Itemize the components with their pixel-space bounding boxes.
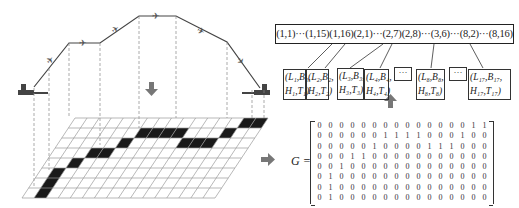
sequence-arrows (308, 44, 483, 68)
matrix-cell: 0 (446, 152, 457, 162)
matrix-cell: 0 (424, 121, 435, 131)
matrix-cell: 0 (325, 121, 336, 131)
matrix-cell: 0 (358, 193, 369, 203)
matrix-cell: 0 (424, 152, 435, 162)
matrix-cell: 0 (424, 183, 435, 193)
matrix-cell: 0 (358, 142, 369, 152)
matrix-cell: 0 (336, 131, 347, 141)
matrix-cell: 0 (457, 152, 468, 162)
matrix-cell: 0 (402, 162, 413, 172)
node-2: (L₂,B₂,H₂,T₂) (306, 69, 329, 100)
matrix-cell: 1 (325, 193, 336, 203)
matrix-cell: 0 (347, 172, 358, 182)
matrix-cell: 0 (314, 152, 325, 162)
matrix-row: 0010000000000000 (311, 162, 493, 172)
occupied-cell (47, 168, 66, 178)
matrix-cell: 0 (479, 193, 490, 203)
matrix-cell: 0 (347, 162, 358, 172)
matrix-cell: 0 (413, 172, 424, 182)
matrix-cell: 0 (479, 142, 490, 152)
matrix-cell: 0 (468, 131, 479, 141)
matrix-cell: 0 (380, 193, 391, 203)
matrix-cell: 0 (479, 183, 490, 193)
matrix-cell: 0 (457, 142, 468, 152)
matrix-cell: 0 (347, 183, 358, 193)
matrix-cell: 0 (446, 162, 457, 172)
matrix-cell: 1 (402, 131, 413, 141)
matrix-cell: 0 (468, 193, 479, 203)
matrix-cell: 0 (424, 162, 435, 172)
matrix-cell: 0 (391, 162, 402, 172)
matrix-cell: 0 (391, 183, 402, 193)
airport-icon-left (18, 84, 48, 95)
right-arrow-icon (261, 153, 275, 166)
matrix-cell: 0 (424, 172, 435, 182)
matrix-cell: 0 (457, 162, 468, 172)
matrix-row: 0100000000000000 (311, 183, 493, 193)
matrix-cell: 0 (479, 162, 490, 172)
matrix-cell: 0 (413, 183, 424, 193)
matrix-cell: 0 (391, 152, 402, 162)
matrix-cell: 0 (446, 183, 457, 193)
matrix-cell: 0 (325, 162, 336, 172)
matrix-row: 0000001111000100 (311, 131, 493, 141)
matrix-cell: 0 (391, 121, 402, 131)
matrix-cell: 0 (402, 121, 413, 131)
matrix-cell: 0 (336, 183, 347, 193)
matrix-cell: 1 (336, 162, 347, 172)
matrix-row: 0001100000000000 (311, 152, 493, 162)
svg-text:✈: ✈ (79, 38, 87, 48)
matrix-cell: 1 (479, 121, 490, 131)
matrix-cell: 0 (479, 131, 490, 141)
matrix-cell: 1 (391, 131, 402, 141)
node-3: (L₃,B₃,H₃,T₃) (337, 68, 364, 100)
matrix-cell: 0 (358, 172, 369, 182)
matrix-cell: 0 (369, 152, 380, 162)
occupied-cell (115, 138, 134, 148)
matrix-cell: 0 (314, 183, 325, 193)
matrix-cell: 0 (314, 193, 325, 203)
matrix-row: 0100000000000000 (311, 193, 493, 203)
matrix-cell: 0 (479, 152, 490, 162)
matrix-cell: 0 (413, 193, 424, 203)
svg-text:✈: ✈ (234, 55, 247, 67)
matrix-cell: 0 (325, 131, 336, 141)
matrix-cell: 1 (457, 131, 468, 141)
matrix-cell: 1 (468, 121, 479, 131)
matrix-cell: 0 (369, 172, 380, 182)
matrix-cell: 0 (336, 142, 347, 152)
ellipsis-box-2: ··· (449, 67, 467, 81)
matrix-cell: 0 (479, 172, 490, 182)
matrix-cell: 0 (369, 193, 380, 203)
matrix-cell: 0 (325, 152, 336, 162)
projection-lines (34, 16, 264, 188)
flight-path (34, 16, 260, 88)
matrix-cell: 0 (435, 193, 446, 203)
matrix-cell: 0 (380, 121, 391, 131)
occupied-cell (41, 178, 60, 188)
matrix-cell: 0 (369, 131, 380, 141)
matrix-cell: 0 (446, 193, 457, 203)
matrix-cell: 0 (347, 131, 358, 141)
svg-text:✈: ✈ (44, 54, 57, 67)
matrix-cell: 0 (446, 121, 457, 131)
matrix-cell: 0 (402, 172, 413, 182)
matrix-row: 0000000000000011 (311, 121, 493, 131)
matrix-cell: 0 (336, 193, 347, 203)
matrix-cell: 0 (336, 121, 347, 131)
svg-text:✈: ✈ (152, 11, 160, 21)
airport-icon-right (242, 84, 270, 95)
matrix-cell: 0 (369, 183, 380, 193)
matrix-cell: 0 (314, 131, 325, 141)
matrix-cell: 0 (314, 162, 325, 172)
matrix-cell: 0 (391, 142, 402, 152)
matrix-cell: 0 (380, 162, 391, 172)
matrix-cell: 0 (380, 152, 391, 162)
matrix-cell: 0 (435, 121, 446, 131)
matrix-cell: 0 (314, 142, 325, 152)
matrix-cell: 0 (380, 172, 391, 182)
matrix-cell: 0 (369, 121, 380, 131)
matrix-cell: 0 (380, 183, 391, 193)
matrix-cell: 1 (325, 183, 336, 193)
matrix-cell: 0 (457, 172, 468, 182)
